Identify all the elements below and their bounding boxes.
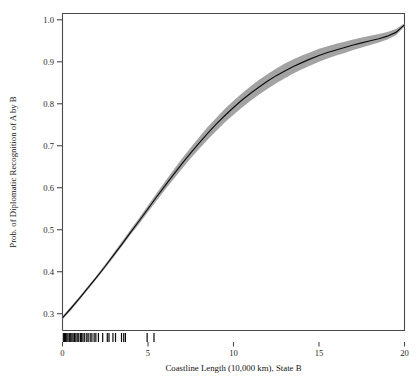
y-axis-tick-label: 0.8 xyxy=(43,99,54,109)
chart-canvas: 0.30.40.50.60.70.80.91.0 05101520 Coastl… xyxy=(0,0,419,377)
x-axis-tick-label: 0 xyxy=(60,348,64,358)
y-axis-title: Prob. of Diplomatic Recognition of A by … xyxy=(8,96,18,248)
y-axis-tick-label: 0.9 xyxy=(43,57,54,67)
y-axis-tick-label: 0.4 xyxy=(43,267,54,277)
y-axis-tick-label: 0.5 xyxy=(43,225,54,235)
y-axis-tick-label: 0.3 xyxy=(43,309,54,319)
x-axis-tick-label: 5 xyxy=(146,348,150,358)
y-axis-tick-label: 0.6 xyxy=(43,183,54,193)
y-axis-tick-label: 1.0 xyxy=(43,15,54,25)
chart-figure: 0.30.40.50.60.70.80.91.0 05101520 Coastl… xyxy=(0,0,419,377)
y-axis-tick-label: 0.7 xyxy=(43,141,54,151)
x-axis-tick-label: 10 xyxy=(229,348,238,358)
x-axis-tick-label: 20 xyxy=(400,348,409,358)
x-axis-tick-label: 15 xyxy=(315,348,324,358)
x-axis-title: Coastline Length (10,000 km), State B xyxy=(165,363,301,373)
